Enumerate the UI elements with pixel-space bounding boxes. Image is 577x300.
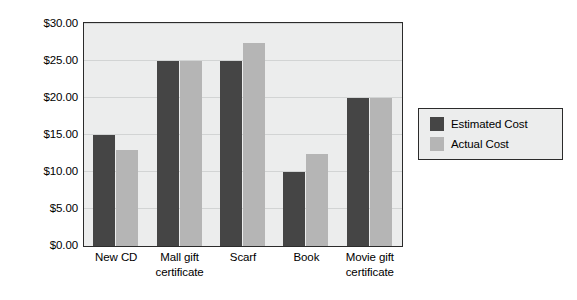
y-axis-tick-label: $15.00 — [0, 129, 78, 140]
plot-area — [83, 22, 403, 247]
x-axis-tick-label: Movie giftcertificate — [326, 250, 413, 279]
bar-actual-cost — [306, 154, 328, 247]
y-axis-tick-label: $25.00 — [0, 55, 78, 66]
y-axis-tick-label: $5.00 — [0, 203, 78, 214]
bar-estimated-cost — [220, 61, 242, 246]
legend-label: Estimated Cost — [451, 118, 528, 130]
legend-swatch-icon — [430, 117, 444, 131]
chart-legend: Estimated Cost Actual Cost — [418, 108, 563, 160]
bar-estimated-cost — [283, 172, 305, 246]
legend-swatch-icon — [430, 137, 444, 151]
bar-actual-cost — [243, 43, 265, 247]
bar-actual-cost — [180, 61, 202, 246]
legend-label: Actual Cost — [451, 138, 509, 150]
y-axis-tick-label: $20.00 — [0, 92, 78, 103]
bar-estimated-cost — [93, 135, 115, 246]
bar-chart: $30.00 $25.00 $20.00 $15.00 $10.00 $5.00… — [0, 0, 577, 300]
bar-actual-cost — [116, 150, 138, 246]
y-axis-tick-label: $0.00 — [0, 240, 78, 251]
bar-estimated-cost — [157, 61, 179, 246]
x-axis: New CDMall giftcertificateScarfBookMovie… — [83, 250, 403, 298]
bar-estimated-cost — [347, 98, 369, 246]
legend-item: Estimated Cost — [430, 116, 528, 132]
y-axis-tick-label: $30.00 — [0, 18, 78, 29]
gridline — [84, 23, 402, 24]
bar-actual-cost — [370, 98, 392, 246]
plot-inner — [84, 23, 402, 246]
legend-item: Actual Cost — [430, 136, 509, 152]
y-axis-tick-label: $10.00 — [0, 166, 78, 177]
y-axis: $30.00 $25.00 $20.00 $15.00 $10.00 $5.00… — [0, 0, 78, 300]
